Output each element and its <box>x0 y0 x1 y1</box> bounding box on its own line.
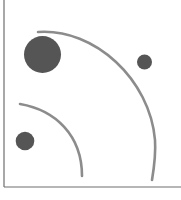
diagram-figure <box>0 0 181 200</box>
diagram-canvas <box>0 0 181 200</box>
large-circle <box>24 36 61 73</box>
medium-circle-bottom-left <box>16 132 35 151</box>
small-circle-right <box>137 55 152 70</box>
